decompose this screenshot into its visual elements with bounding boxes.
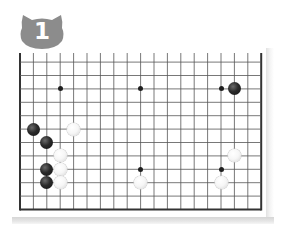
star-point: [219, 86, 224, 91]
white-stone: [54, 163, 67, 176]
white-stone: [67, 123, 80, 136]
star-point: [138, 167, 143, 172]
white-stone: [215, 176, 228, 189]
black-stone: [27, 123, 40, 136]
go-board[interactable]: [0, 0, 290, 232]
star-point: [219, 167, 224, 172]
white-stone: [54, 176, 67, 189]
board-grid: [0, 0, 290, 232]
